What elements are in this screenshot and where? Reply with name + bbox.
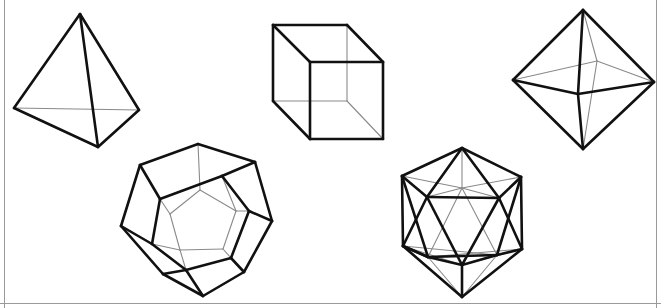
icosahedron-visible-edge [427, 197, 499, 198]
icosahedron-visible-edge [402, 176, 403, 246]
solids-drawing-canvas [0, 0, 661, 308]
icosahedron-visible-edge [521, 177, 522, 249]
platonic-solids-figure [0, 0, 661, 308]
